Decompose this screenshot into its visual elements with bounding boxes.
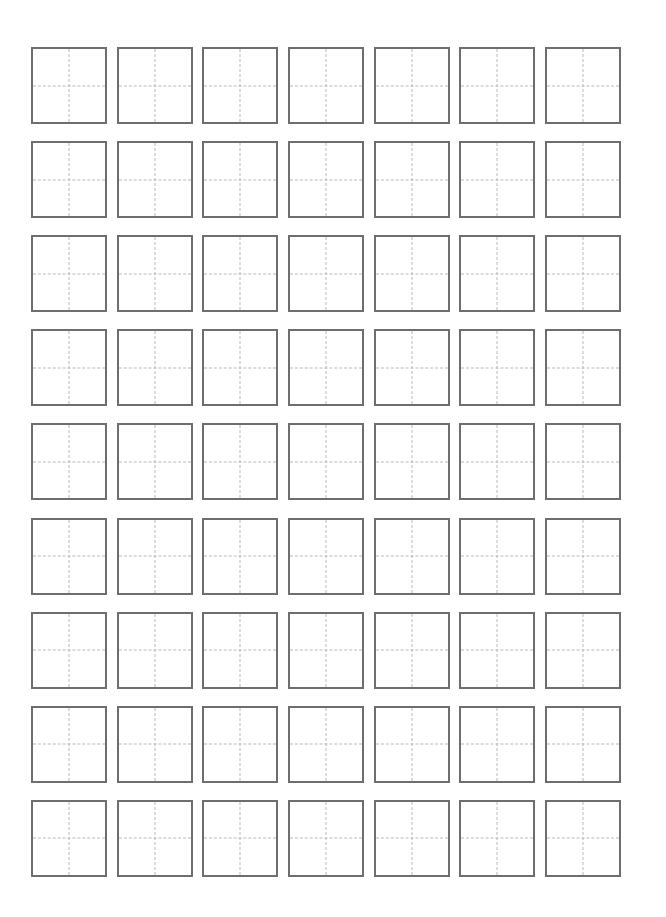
practice-cell[interactable]	[459, 47, 535, 124]
worksheet-page	[0, 0, 666, 917]
practice-cell[interactable]	[374, 47, 450, 124]
practice-cell[interactable]	[31, 329, 107, 406]
cell-glyph	[290, 331, 362, 404]
cell-glyph	[461, 520, 533, 593]
practice-cell[interactable]	[202, 800, 278, 877]
cell-glyph	[547, 143, 619, 216]
cell-glyph	[33, 237, 105, 310]
practice-cell[interactable]	[459, 800, 535, 877]
practice-cell[interactable]	[459, 329, 535, 406]
practice-cell[interactable]	[459, 141, 535, 218]
cell-glyph	[376, 520, 448, 593]
practice-cell[interactable]	[374, 706, 450, 783]
cell-glyph	[33, 802, 105, 875]
practice-cell[interactable]	[202, 141, 278, 218]
practice-cell[interactable]	[117, 518, 193, 595]
practice-cell[interactable]	[374, 800, 450, 877]
practice-cell[interactable]	[202, 518, 278, 595]
practice-cell[interactable]	[117, 612, 193, 689]
practice-cell[interactable]	[545, 329, 621, 406]
cell-glyph	[290, 614, 362, 687]
practice-cell[interactable]	[117, 235, 193, 312]
cell-glyph	[461, 425, 533, 498]
practice-cell[interactable]	[202, 706, 278, 783]
cell-glyph	[204, 49, 276, 122]
practice-cell[interactable]	[545, 235, 621, 312]
practice-cell[interactable]	[288, 706, 364, 783]
cell-glyph	[204, 520, 276, 593]
cell-glyph	[461, 49, 533, 122]
practice-cell[interactable]	[374, 329, 450, 406]
practice-cell[interactable]	[288, 141, 364, 218]
cell-glyph	[119, 520, 191, 593]
practice-cell[interactable]	[117, 329, 193, 406]
cell-glyph	[290, 520, 362, 593]
practice-cell[interactable]	[117, 423, 193, 500]
practice-cell[interactable]	[545, 47, 621, 124]
cell-glyph	[204, 425, 276, 498]
cell-glyph	[204, 708, 276, 781]
practice-cell[interactable]	[288, 235, 364, 312]
practice-cell[interactable]	[117, 706, 193, 783]
practice-cell[interactable]	[202, 235, 278, 312]
practice-cell[interactable]	[459, 423, 535, 500]
cell-glyph	[204, 802, 276, 875]
practice-cell[interactable]	[545, 518, 621, 595]
practice-cell[interactable]	[31, 235, 107, 312]
practice-cell[interactable]	[31, 518, 107, 595]
cell-glyph	[119, 802, 191, 875]
practice-cell[interactable]	[117, 47, 193, 124]
practice-cell[interactable]	[459, 235, 535, 312]
cell-glyph	[547, 802, 619, 875]
practice-cell[interactable]	[31, 141, 107, 218]
practice-cell[interactable]	[288, 329, 364, 406]
practice-cell[interactable]	[374, 612, 450, 689]
cell-glyph	[376, 237, 448, 310]
practice-cell[interactable]	[31, 800, 107, 877]
practice-cell[interactable]	[545, 612, 621, 689]
cell-glyph	[119, 708, 191, 781]
practice-cell[interactable]	[31, 47, 107, 124]
cell-glyph	[376, 614, 448, 687]
cell-glyph	[376, 143, 448, 216]
cell-glyph	[33, 49, 105, 122]
practice-cell[interactable]	[459, 612, 535, 689]
practice-cell[interactable]	[202, 423, 278, 500]
practice-cell[interactable]	[374, 235, 450, 312]
practice-cell[interactable]	[545, 800, 621, 877]
tian-zi-ge-practice-grid	[31, 47, 635, 874]
cell-glyph	[461, 708, 533, 781]
practice-cell[interactable]	[31, 612, 107, 689]
practice-cell[interactable]	[374, 141, 450, 218]
practice-cell[interactable]	[202, 612, 278, 689]
cell-glyph	[204, 237, 276, 310]
practice-cell[interactable]	[288, 518, 364, 595]
cell-glyph	[204, 143, 276, 216]
practice-cell[interactable]	[545, 706, 621, 783]
practice-cell[interactable]	[31, 423, 107, 500]
cell-glyph	[547, 331, 619, 404]
practice-cell[interactable]	[288, 800, 364, 877]
practice-cell[interactable]	[545, 423, 621, 500]
practice-cell[interactable]	[374, 423, 450, 500]
practice-cell[interactable]	[459, 706, 535, 783]
practice-cell[interactable]	[288, 47, 364, 124]
practice-cell[interactable]	[545, 141, 621, 218]
cell-glyph	[461, 237, 533, 310]
cell-glyph	[119, 331, 191, 404]
practice-cell[interactable]	[117, 800, 193, 877]
practice-cell[interactable]	[288, 612, 364, 689]
cell-glyph	[119, 49, 191, 122]
practice-cell[interactable]	[31, 706, 107, 783]
practice-cell[interactable]	[459, 518, 535, 595]
practice-cell[interactable]	[117, 141, 193, 218]
practice-cell[interactable]	[288, 423, 364, 500]
practice-cell[interactable]	[202, 47, 278, 124]
cell-glyph	[376, 425, 448, 498]
cell-glyph	[547, 237, 619, 310]
cell-glyph	[376, 802, 448, 875]
practice-cell[interactable]	[202, 329, 278, 406]
practice-cell[interactable]	[374, 518, 450, 595]
cell-glyph	[376, 331, 448, 404]
cell-glyph	[119, 425, 191, 498]
